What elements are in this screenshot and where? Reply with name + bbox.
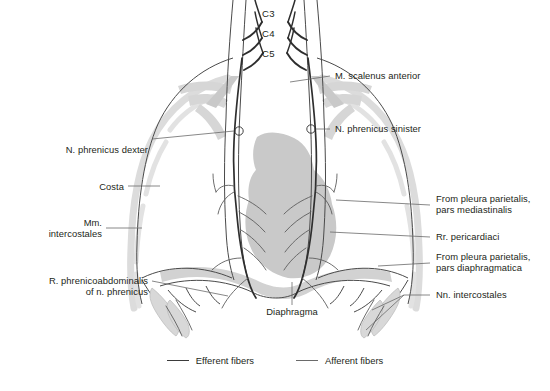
label-n-phrenicus-dexter: N. phrenicus dexter — [10, 144, 148, 155]
root-label-c4: C4 — [262, 28, 275, 39]
label-r-phrenicoabdominalis: R. phrenicoabdominalis of n. phrenicus — [6, 275, 148, 298]
label-nn-intercostales: Nn. intercostales — [436, 289, 548, 300]
diaphragm-slip-right-a — [350, 288, 364, 306]
afferent-line-swatch — [296, 360, 318, 361]
label-costa: Costa — [10, 181, 124, 192]
pleural-branch-right-3 — [334, 174, 337, 192]
legend-item-afferent: Afferent fibers — [296, 355, 383, 366]
label-mm-intercostales: Mm. intercostales — [10, 217, 102, 240]
legend-item-efferent: Efferent fibers — [167, 355, 254, 366]
diaphragm-slip-left-a — [186, 288, 200, 306]
legend-label-afferent: Afferent fibers — [325, 355, 383, 366]
heart-silhouette — [245, 133, 336, 279]
label-pleura-mediastinalis: From pleura parietalis, pars mediastinal… — [436, 193, 548, 216]
pleural-branch-left-2 — [218, 192, 234, 214]
diaphragmatic-branch-left — [212, 258, 241, 270]
leader-r-phrenicoabdominalis — [152, 281, 228, 296]
scapula-arc-right — [324, 104, 355, 140]
diaphragm-slip-right-b — [330, 286, 344, 304]
label-diaphragma: Diaphragma — [252, 306, 332, 317]
label-rr-pericardiaci: Rr. pericardiaci — [436, 231, 548, 242]
root-c5-right — [287, 53, 306, 70]
root-label-c5: C5 — [262, 48, 275, 59]
cervical-roots-group — [243, 22, 307, 70]
legend-label-efferent: Efferent fibers — [196, 355, 254, 366]
diaphragm-slip-left-b — [206, 286, 220, 304]
cervical-roots-descending — [255, 0, 295, 53]
legend: Efferent fibers Afferent fibers — [0, 355, 550, 366]
pleural-branch-left-3 — [213, 174, 216, 192]
root-c5-left — [244, 53, 263, 70]
pleura-left-outline — [225, 0, 235, 280]
label-pleura-diaphragmatica: From pleura parietalis, pars diaphragmat… — [436, 251, 548, 274]
anatomical-figure: C3 C4 C5 N. phrenicus dexter Costa Mm. i… — [0, 0, 550, 391]
root-label-c3: C3 — [262, 8, 275, 19]
label-m-scalenus-anterior: M. scalenus anterior — [335, 70, 485, 81]
efferent-line-swatch — [167, 360, 189, 361]
label-n-phrenicus-sinister: N. phrenicus sinister — [335, 123, 485, 134]
